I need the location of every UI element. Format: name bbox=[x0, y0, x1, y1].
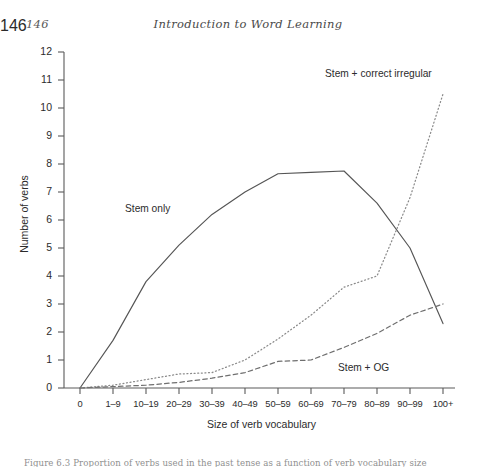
y-tick-label: 9 bbox=[30, 130, 52, 141]
x-tick-label: 80–89 bbox=[364, 399, 389, 409]
series-label-stem-only: Stem only bbox=[125, 203, 170, 214]
x-axis-title: Size of verb vocabulary bbox=[80, 418, 443, 430]
y-tick-label: 1 bbox=[30, 354, 52, 365]
chapter-title: Introduction to Word Learning bbox=[0, 17, 496, 31]
y-tick-label: 12 bbox=[30, 46, 52, 57]
x-tick-label: 30–39 bbox=[199, 399, 224, 409]
x-tick-label: 100+ bbox=[433, 399, 454, 409]
y-axis-title: Number of verbs bbox=[18, 144, 30, 284]
x-tick-label: 0 bbox=[77, 399, 82, 409]
x-tick-label: 40–49 bbox=[232, 399, 257, 409]
y-tick-label: 0 bbox=[30, 382, 52, 393]
y-tick-label: 7 bbox=[30, 186, 52, 197]
y-tick-label: 4 bbox=[30, 270, 52, 281]
page-number-text: 146 bbox=[26, 17, 49, 31]
figure-caption: Figure 6.3 Proportion of verbs used in t… bbox=[24, 458, 472, 467]
chart-axes bbox=[58, 52, 455, 394]
y-tick-label: 10 bbox=[30, 102, 52, 113]
y-tick-label: 11 bbox=[30, 74, 52, 85]
y-tick-label: 5 bbox=[30, 242, 52, 253]
x-tick-label: 20–29 bbox=[166, 399, 191, 409]
x-tick-label: 1–9 bbox=[105, 399, 120, 409]
x-tick-label: 50–59 bbox=[265, 399, 290, 409]
y-tick-label: 2 bbox=[30, 326, 52, 337]
running-head: 146 Introduction to Word Learning 146 bbox=[0, 17, 496, 35]
y-tick-label: 8 bbox=[30, 158, 52, 169]
x-tick-label: 90–99 bbox=[397, 399, 422, 409]
figure-line-chart: 0123456789101112 01–910–1920–2930–3940–4… bbox=[0, 40, 496, 467]
x-tick-label: 60–69 bbox=[298, 399, 323, 409]
y-tick-label: 6 bbox=[30, 214, 52, 225]
series-line-stem-correct-irregular bbox=[80, 94, 443, 388]
x-tick-label: 70–79 bbox=[331, 399, 356, 409]
x-tick-label: 10–19 bbox=[133, 399, 158, 409]
y-tick-label: 3 bbox=[30, 298, 52, 309]
chart-series bbox=[80, 94, 443, 388]
series-line-stem-og bbox=[80, 304, 443, 388]
series-label-stem-og: Stem + OG bbox=[338, 362, 389, 373]
series-label-stem-correct-irregular: Stem + correct irregular bbox=[325, 68, 432, 79]
